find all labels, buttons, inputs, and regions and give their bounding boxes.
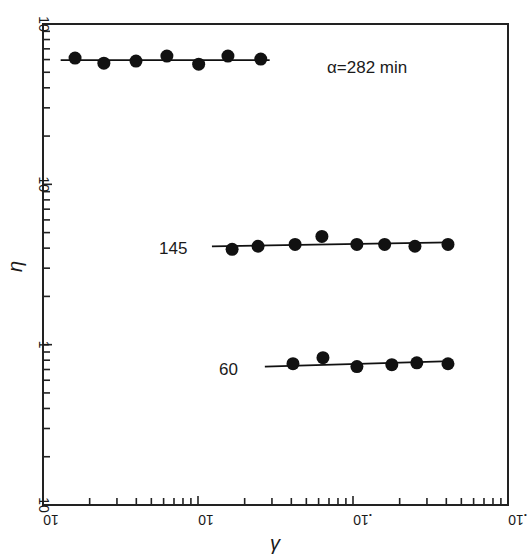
data-series	[61, 50, 455, 374]
data-point	[129, 55, 142, 68]
y-tick-label: 10	[36, 16, 52, 32]
x-axis-label: γ	[270, 532, 281, 554]
series-1	[212, 230, 455, 256]
y-axis-label: η	[4, 261, 26, 272]
y-tick-label: 10	[36, 497, 52, 513]
svg-text:1: 1	[36, 341, 52, 349]
data-point	[69, 52, 82, 65]
data-point	[350, 238, 363, 251]
data-point	[286, 357, 299, 370]
svg-text:10: 10	[36, 16, 52, 32]
plot-frame	[43, 24, 508, 505]
data-point	[378, 238, 391, 251]
log-log-viscosity-chart: 101010•10•1011010 α=282 min 145 60 γ η	[0, 0, 531, 557]
data-point	[408, 240, 421, 253]
svg-text:10: 10	[43, 512, 59, 528]
svg-text:10: 10	[353, 512, 369, 528]
data-point	[289, 238, 302, 251]
x-tick-label: 10	[198, 512, 214, 528]
data-point	[226, 243, 239, 256]
data-point	[160, 50, 173, 63]
x-tick-label: 10	[43, 512, 59, 528]
data-point	[410, 356, 423, 369]
x-tick-exponent: •	[369, 510, 372, 519]
series-0	[61, 50, 270, 71]
data-point	[441, 357, 454, 370]
svg-text:10: 10	[198, 512, 214, 528]
svg-text:10: 10	[36, 177, 52, 193]
series-label-60: 60	[219, 360, 238, 379]
data-point	[221, 50, 234, 63]
series-2	[265, 351, 455, 373]
x-tick-exponent: •	[524, 510, 527, 519]
svg-text:10: 10	[36, 497, 52, 513]
data-point	[254, 53, 267, 66]
data-point	[316, 351, 329, 364]
data-point	[441, 238, 454, 251]
series-label-282: α=282 min	[327, 58, 407, 77]
x-tick-label: 10	[508, 512, 524, 528]
data-point	[385, 358, 398, 371]
y-tick-label: 1	[36, 341, 52, 349]
x-tick-label: 10	[353, 512, 369, 528]
axis-tick-labels: 101010•10•1011010	[36, 16, 527, 528]
axis-ticks	[43, 31, 501, 505]
series-label-145: 145	[159, 239, 187, 258]
data-point	[350, 360, 363, 373]
data-point	[97, 57, 110, 70]
svg-text:10: 10	[508, 512, 524, 528]
data-point	[192, 58, 205, 71]
y-tick-label: 10	[36, 177, 52, 193]
data-point	[315, 230, 328, 243]
data-point	[252, 240, 265, 253]
